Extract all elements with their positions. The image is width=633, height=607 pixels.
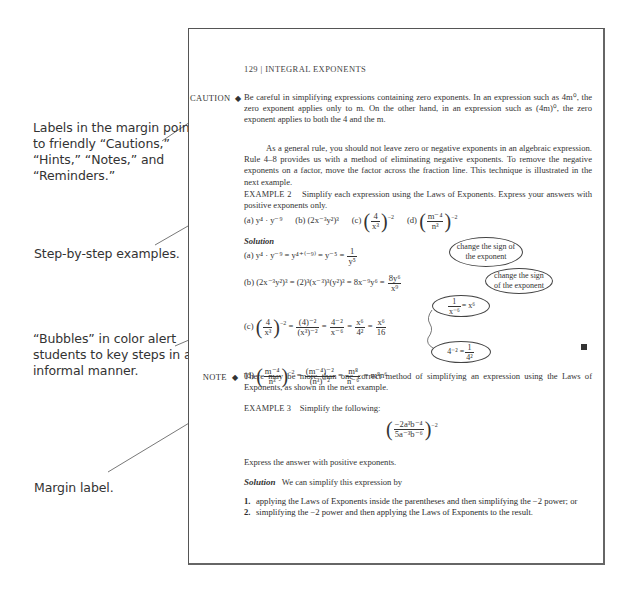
bubble-line: change the sign xyxy=(494,271,544,281)
annotation-line: “Reminders.” xyxy=(33,168,194,184)
example-3-prompt: Simplify the following: xyxy=(300,403,381,413)
left-paren: ( xyxy=(386,418,393,440)
fraction: 1x⁻⁶ xyxy=(448,297,461,316)
fraction: 8y⁶x⁹ xyxy=(388,274,402,293)
fraction: −2a³b⁻⁴5a⁻³b⁻⁶ xyxy=(394,420,424,439)
step-number: 1. xyxy=(244,496,250,507)
annotation-step-examples: Step-by-step examples. xyxy=(34,246,180,262)
denominator: 4² xyxy=(465,353,473,362)
fraction: 4x³ xyxy=(263,318,272,337)
right-paren: ) xyxy=(381,210,388,232)
problem-b: (b) (2x⁻³y²)³ xyxy=(295,215,339,225)
solution-a: (a) y⁴ · y⁻⁹ = y⁴⁺⁽⁻⁹⁾ = y⁻⁵ = 1y⁵ xyxy=(244,247,358,266)
example-2-statement: EXAMPLE 2 Simplify each expression using… xyxy=(244,189,592,211)
solution-b: (b) (2x⁻³y²)³ = (2)³(x⁻³)³(y²)³ = 8x⁻⁹y⁶… xyxy=(244,274,402,293)
note-label-text: NOTE xyxy=(203,372,227,382)
denominator: x⁹ xyxy=(388,284,402,293)
bubble-line: of the exponent xyxy=(494,281,544,291)
bubble-text: change the sign of the exponent xyxy=(457,242,515,262)
example-3-expression: (−2a³b⁻⁴5a⁻³b⁻⁶)−2 xyxy=(386,418,438,441)
right-paren: ) xyxy=(273,316,280,338)
annotation-line: Margin label. xyxy=(34,480,114,496)
caution-label-text: CAUTION xyxy=(190,93,230,103)
bubble-line: the exponent xyxy=(457,252,515,262)
fraction: (4)⁻²(x³)⁻² xyxy=(296,318,318,337)
equals: = xyxy=(322,321,327,331)
diamond-icon: ◆ xyxy=(232,373,238,382)
fraction: x⁶16 xyxy=(376,318,387,337)
denominator: (x³)⁻² xyxy=(296,328,318,337)
annotation-line: Labels in the margin point xyxy=(33,120,194,136)
step-text: simplifying the −2 power and then applyi… xyxy=(256,507,533,517)
denominator: x⁻⁶ xyxy=(330,328,344,337)
solution-c-label: (c) xyxy=(244,321,254,331)
step-number: 2. xyxy=(244,507,250,518)
bubble-reciprocal-x: 1x⁻⁶ = x⁶ xyxy=(432,295,490,317)
example-2-title: EXAMPLE 2 xyxy=(244,190,292,199)
exponent: −2 xyxy=(280,320,286,326)
denominator: x⁻⁶ xyxy=(448,307,461,316)
left-paren: ( xyxy=(363,210,370,232)
denominator: 5a⁻³b⁻⁶ xyxy=(394,430,424,439)
fraction: 4⁻²x⁻⁶ xyxy=(330,318,344,337)
step-text: applying the Laws of Exponents inside th… xyxy=(256,496,577,506)
bubble-lhs: 4⁻² = xyxy=(447,347,464,357)
page-number: 129 xyxy=(244,64,258,74)
denominator: 16 xyxy=(376,328,387,337)
annotation-line: informal manner. xyxy=(33,363,199,379)
solution-label: Solution xyxy=(244,477,276,487)
problem-d-label: (d) xyxy=(407,215,417,225)
solution-c: (c) (4x³)−2 = (4)⁻²(x³)⁻² = 4⁻²x⁻⁶ = x⁶4… xyxy=(244,316,387,339)
numerator: 1 xyxy=(448,297,461,307)
list-item: 2. simplifying the −2 power and then app… xyxy=(244,507,592,518)
bubble-change-sign-a: change the sign of the exponent xyxy=(449,237,523,267)
bubble-reciprocal-4: 4⁻² = 14² xyxy=(431,341,491,363)
exponent: −2 xyxy=(451,214,457,220)
example-2-prompt: Simplify each expression using the Laws … xyxy=(244,189,592,210)
fraction: x⁶4² xyxy=(355,318,364,337)
diamond-icon: ◆ xyxy=(235,94,241,103)
annotation-line: Step-by-step examples. xyxy=(34,246,180,262)
chapter-title: INTEGRAL EXPONENTS xyxy=(265,64,366,74)
note-label: NOTE◆ xyxy=(190,372,238,382)
denominator: x³ xyxy=(371,222,380,231)
denominator: 4² xyxy=(355,328,364,337)
numerator: 1 xyxy=(465,343,473,353)
solution-intro: We can simplify this expression by xyxy=(282,477,402,487)
annotation-line: students to key steps in an xyxy=(33,347,199,363)
fraction: m⁻⁴n³ xyxy=(427,212,444,231)
caution-paragraph: Be careful in simplifying expressions co… xyxy=(244,92,592,126)
example-3-instruction: Express the answer with positive exponen… xyxy=(244,457,592,468)
bubble-change-sign-b: change the sign of the exponent xyxy=(485,268,553,294)
bubble-text: change the sign of the exponent xyxy=(494,271,544,291)
example-3-solution: Solution We can simplify this expression… xyxy=(244,477,592,488)
solution-label: Solution xyxy=(244,236,274,246)
equals: = xyxy=(368,321,373,331)
bubble-line: change the sign of xyxy=(457,242,515,252)
running-header: 129 | INTEGRAL EXPONENTS xyxy=(244,64,366,74)
note-paragraph: There may be more than one correct metho… xyxy=(244,371,592,393)
example-2-problems: (a) y⁴ · y⁻⁹ (b) (2x⁻³y²)³ (c) (4x³)−2 (… xyxy=(244,210,458,233)
problem-a: (a) y⁴ · y⁻⁹ xyxy=(244,215,282,225)
fraction: 4x³ xyxy=(371,212,380,231)
solution-b-steps: (b) (2x⁻³y²)³ = (2)³(x⁻³)³(y²)³ = 8x⁻⁹y⁶… xyxy=(244,277,385,287)
fraction: 14² xyxy=(465,343,473,362)
end-of-proof-icon xyxy=(581,344,587,350)
annotation-margin-label: Margin label. xyxy=(34,480,114,496)
exponent: −2 xyxy=(388,214,394,220)
denominator: n³ xyxy=(427,222,444,231)
example-3-statement: EXAMPLE 3 Simplify the following: xyxy=(244,403,592,414)
left-paren: ( xyxy=(256,316,263,338)
solution-a-steps: (a) y⁴ · y⁻⁹ = y⁴⁺⁽⁻⁹⁾ = y⁻⁵ = xyxy=(244,250,344,260)
denominator: x³ xyxy=(263,328,272,337)
bubble-rhs: = x⁶ xyxy=(462,301,475,311)
problem-c-label: (c) xyxy=(352,215,362,225)
example-3-title: EXAMPLE 3 xyxy=(244,404,291,413)
left-paren: ( xyxy=(419,210,426,232)
annotation-line: “Hints,” “Notes,” and xyxy=(33,152,194,168)
solution-steps-list: 1. applying the Laws of Exponents inside… xyxy=(244,496,592,518)
annotation-line: to friendly “Cautions,” xyxy=(33,136,194,152)
caution-label: CAUTION◆ xyxy=(190,93,238,103)
equals: = xyxy=(347,321,352,331)
fraction: 1y⁵ xyxy=(347,247,356,266)
